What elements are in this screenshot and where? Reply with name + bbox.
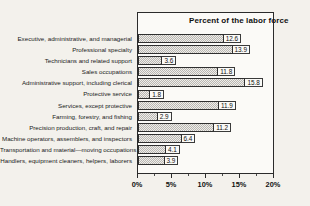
category-label: Sales occupations <box>0 66 135 77</box>
x-axis-tick-label: 20% <box>266 180 281 189</box>
x-tick-minor <box>188 174 189 176</box>
category-label: Administrative support, including cleric… <box>0 77 135 88</box>
x-axis-ticks <box>137 174 274 178</box>
category-label: Machine operators, assemblers, and inspe… <box>0 133 135 144</box>
category-label: Protective service <box>0 88 135 99</box>
bar-row: 12.6 <box>138 33 274 44</box>
x-tick-minor <box>222 174 223 176</box>
x-tick-major <box>137 174 138 178</box>
category-label: Services, except protective <box>0 100 135 111</box>
bar-row: 15.8 <box>138 77 274 88</box>
bar-chart: Percent of the labor force Executive, ad… <box>0 0 310 206</box>
x-axis-tick-label: 10% <box>198 180 213 189</box>
x-axis-labels: 0%5%10%15%20% <box>0 180 310 194</box>
bar-value-label: 12.6 <box>224 34 241 43</box>
bar-row: 11.8 <box>138 66 274 77</box>
bar <box>138 101 219 110</box>
x-tick-minor <box>154 174 155 176</box>
bar-row: 3.6 <box>138 55 274 66</box>
bar <box>138 78 245 87</box>
bar <box>138 45 233 54</box>
bar-value-label: 15.8 <box>245 78 262 87</box>
category-label: Farming, forestry, and fishing <box>0 111 135 122</box>
bar-row: 11.2 <box>138 122 274 133</box>
bar-row: 3.9 <box>138 155 274 166</box>
bar-value-label: 2.9 <box>158 112 172 121</box>
bar-value-label: 3.9 <box>165 156 179 165</box>
category-axis-labels: Executive, administrative, and manageria… <box>0 33 135 166</box>
bar-value-label: 11.9 <box>219 101 236 110</box>
bar-value-label: 6.4 <box>182 134 196 143</box>
bar-row: 11.9 <box>138 100 274 111</box>
bar <box>138 67 218 76</box>
x-tick-minor <box>256 174 257 176</box>
bar <box>138 112 158 121</box>
bar <box>138 56 162 65</box>
bar-row: 1.8 <box>138 88 274 99</box>
bar <box>138 145 166 154</box>
bar-value-label: 11.8 <box>218 67 235 76</box>
x-tick-major <box>239 174 240 178</box>
bar <box>138 134 182 143</box>
bar-value-label: 3.6 <box>162 56 176 65</box>
bar-value-label: 13.9 <box>233 45 250 54</box>
bar-row: 6.4 <box>138 133 274 144</box>
bar-row: 2.9 <box>138 111 274 122</box>
bar-row: 13.9 <box>138 44 274 55</box>
bar-value-label: 1.8 <box>150 90 164 99</box>
category-label: Handlers, equipment cleaners, helpers, l… <box>0 155 135 166</box>
category-label: Transportation and material—moving occup… <box>0 144 135 155</box>
bar <box>138 90 150 99</box>
category-label: Professional specialty <box>0 44 135 55</box>
x-axis-tick-label: 5% <box>166 180 177 189</box>
x-axis-tick-label: 15% <box>232 180 247 189</box>
x-tick-major <box>205 174 206 178</box>
category-label: Precision production, craft, and repair <box>0 122 135 133</box>
bar-value-label: 4.1 <box>166 145 180 154</box>
x-tick-major <box>171 174 172 178</box>
bar <box>138 156 165 165</box>
bar <box>138 34 224 43</box>
bars-container: 12.613.93.611.815.81.811.92.911.26.44.13… <box>138 33 274 166</box>
x-axis-tick-label: 0% <box>132 180 143 189</box>
x-tick-major <box>273 174 274 178</box>
category-label: Executive, administrative, and manageria… <box>0 33 135 44</box>
bar-value-label: 11.2 <box>214 123 231 132</box>
category-label: Technicians and related support <box>0 55 135 66</box>
bar-row: 4.1 <box>138 144 274 155</box>
bar <box>138 123 214 132</box>
